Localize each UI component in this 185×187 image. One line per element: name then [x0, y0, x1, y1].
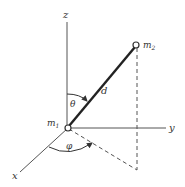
phi-label: φ — [66, 141, 73, 151]
y-axis-label: y — [168, 122, 175, 133]
mass-m1-marker — [65, 125, 71, 131]
z-axis-label: z — [62, 9, 69, 20]
spherical-coordinates-diagram: z y x d θ φ m1 m2 — [0, 0, 185, 187]
x-axis — [20, 128, 68, 172]
mass-m1-label: m1 — [47, 118, 59, 129]
mass-m1-symbol: m — [47, 118, 56, 128]
distance-label: d — [101, 85, 107, 96]
mass-m2-marker — [133, 42, 139, 48]
mass-m2-symbol: m — [143, 40, 152, 50]
mass-m1-subscript: 1 — [56, 122, 60, 129]
x-axis-label: x — [12, 170, 18, 181]
mass-m2-subscript: 2 — [151, 44, 156, 51]
theta-label: θ — [70, 99, 76, 109]
mass-m2-label: m2 — [143, 40, 156, 51]
